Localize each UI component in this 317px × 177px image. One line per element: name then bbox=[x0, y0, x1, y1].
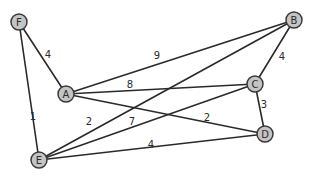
graph-canvas: 4198243274 FABCDE bbox=[0, 0, 317, 177]
edge-weight-c-d: 3 bbox=[261, 99, 267, 110]
edge-weight-e-c: 7 bbox=[129, 116, 135, 127]
node-c: C bbox=[247, 76, 263, 92]
edge-weight-a-c: 8 bbox=[127, 79, 133, 90]
node-b: B bbox=[286, 12, 302, 28]
node-label: F bbox=[16, 17, 22, 28]
node-label: C bbox=[252, 79, 259, 90]
edge-weight-a-b: 9 bbox=[154, 50, 160, 61]
node-e: E bbox=[31, 152, 47, 168]
edge-weight-f-a: 4 bbox=[45, 49, 51, 60]
edge-f-e bbox=[19, 22, 39, 160]
node-f: F bbox=[11, 14, 27, 30]
node-label: B bbox=[291, 15, 298, 26]
weighted-graph: 4198243274 FABCDE bbox=[0, 0, 317, 177]
node-a: A bbox=[58, 86, 74, 102]
edge-weight-e-d: 4 bbox=[148, 139, 154, 150]
edge-b-c bbox=[255, 20, 294, 84]
node-label: E bbox=[36, 155, 42, 166]
node-label: D bbox=[261, 129, 269, 140]
edge-weight-e-b: 2 bbox=[86, 116, 92, 127]
edge-weight-f-e: 1 bbox=[30, 111, 36, 122]
node-d: D bbox=[257, 126, 273, 142]
edge-weight-a-d: 2 bbox=[204, 112, 210, 123]
edge-weight-b-c: 4 bbox=[279, 51, 285, 62]
edge-f-a bbox=[19, 22, 66, 94]
node-label: A bbox=[63, 89, 70, 100]
